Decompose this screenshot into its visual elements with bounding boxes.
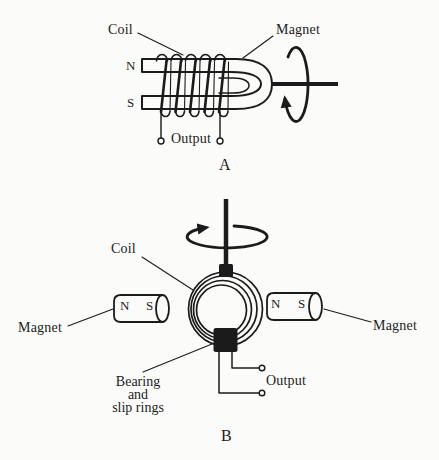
magnet-cylinder-right-cap <box>309 293 322 320</box>
bearing-slip-rings-block <box>214 328 238 352</box>
magnet-a-leader-line <box>243 36 273 58</box>
coil-b-label: Coil <box>111 242 136 256</box>
coil-a-label: Coil <box>108 23 133 37</box>
output-terminal-b-lower <box>259 390 265 396</box>
magnet-b-right-label: Magnet <box>373 319 417 333</box>
pole-s-label-a: S <box>127 96 134 109</box>
panel-b-drawing <box>68 199 371 396</box>
pole-n-label-b-right: N <box>271 297 281 310</box>
output-wire-b-upper <box>232 350 259 368</box>
output-b-label: Output <box>266 374 306 388</box>
output-a-label: Output <box>171 132 211 146</box>
output-terminal-a-right <box>217 138 223 144</box>
pole-s-label-b-left: S <box>146 299 153 312</box>
panel-a-letter: A <box>219 157 231 173</box>
magnet-b-right-leader-line <box>324 309 371 322</box>
magnet-cylinder-left-cap <box>156 295 169 322</box>
shaft-connector-block <box>219 264 233 277</box>
output-wire-b-lower <box>219 351 259 393</box>
coil-b-ring-4 <box>197 285 247 335</box>
pole-n-label-a: N <box>126 59 136 72</box>
coil-b-leader-line <box>142 257 193 290</box>
panel-a-drawing <box>138 33 338 144</box>
bearing-label-line3: slip rings <box>99 401 177 414</box>
output-terminal-b-upper <box>259 365 265 371</box>
magnet-b-left-label: Magnet <box>18 321 62 335</box>
pole-s-label-b-right: S <box>298 297 305 310</box>
magnet-b-left-leader-line <box>68 309 113 326</box>
coil-a-leader-line <box>138 33 183 55</box>
pole-n-label-b-left: N <box>120 299 130 312</box>
bearing-leader-line <box>143 344 212 372</box>
figure-line-art <box>0 0 439 460</box>
generator-figure-page: Coil Magnet N S Output A Coil Magnet Mag… <box>0 0 439 460</box>
output-terminals-b <box>219 350 265 396</box>
magnet-a-label: Magnet <box>276 23 320 37</box>
output-terminal-a-left <box>158 138 164 144</box>
panel-b-letter: B <box>221 428 232 444</box>
bearing-slip-rings-label: Bearing and slip rings <box>99 375 177 414</box>
